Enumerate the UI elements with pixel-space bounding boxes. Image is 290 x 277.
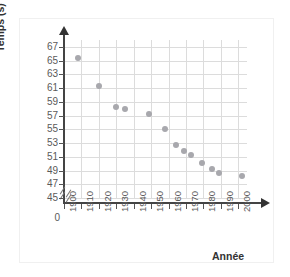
y-tick-label: 49: [12, 166, 58, 176]
x-tick-label: 1920: [103, 191, 112, 212]
y-axis-arrow-icon: [59, 26, 69, 35]
y-tick-label: 63: [12, 69, 58, 79]
y-tick-label: 51: [12, 152, 58, 162]
y-tick-mark: [59, 157, 64, 158]
gridline-vertical: [99, 40, 100, 198]
x-tick-mark: [221, 204, 222, 209]
origin-label: 0: [40, 212, 60, 223]
y-tick-mark: [59, 184, 64, 185]
x-tick-mark: [116, 204, 117, 209]
y-tick-label: 67: [12, 42, 58, 52]
axis-break-icon: [57, 186, 73, 204]
y-tick-mark: [59, 74, 64, 75]
y-tick-label: 47: [12, 179, 58, 189]
y-tick-label: 61: [12, 83, 58, 93]
y-tick-mark: [59, 143, 64, 144]
y-axis-title: Temps (s): [0, 3, 6, 52]
x-tick-mark: [203, 204, 204, 209]
x-tick-mark: [134, 204, 135, 209]
data-point: [75, 55, 81, 61]
x-tick-mark: [238, 204, 239, 209]
y-tick-mark: [59, 198, 64, 199]
gridline-horizontal: [64, 184, 247, 185]
y-tick-label: 45: [12, 193, 58, 203]
y-tick-mark: [59, 47, 64, 48]
y-tick-mark: [59, 171, 64, 172]
x-tick-label: 1960: [173, 191, 182, 212]
gridline-horizontal: [64, 61, 247, 62]
y-tick-label: 59: [12, 97, 58, 107]
data-point: [113, 104, 119, 110]
gridline-vertical: [116, 40, 117, 198]
x-tick-label: 1990: [225, 191, 234, 212]
x-tick-mark: [81, 204, 82, 209]
x-tick-label: 1950: [155, 191, 164, 212]
gridline-horizontal: [64, 143, 247, 144]
gridline-horizontal: [64, 47, 247, 48]
y-axis-line: [63, 33, 65, 203]
gridline-vertical: [151, 40, 152, 198]
x-tick-label: 2000: [242, 191, 251, 212]
x-axis-title: Année: [212, 250, 244, 262]
x-tick-label: 1980: [207, 191, 216, 212]
data-point: [199, 160, 205, 166]
x-tick-label: 1940: [138, 191, 147, 212]
x-tick-label: 1910: [85, 191, 94, 212]
x-tick-label: 1930: [120, 191, 129, 212]
data-point: [173, 142, 179, 148]
gridline-vertical: [186, 40, 187, 198]
gridline-vertical: [203, 40, 204, 198]
data-point: [96, 83, 102, 89]
gridline-vertical: [134, 40, 135, 198]
gridline-horizontal: [64, 74, 247, 75]
plot-area: [64, 40, 247, 198]
x-tick-mark: [169, 204, 170, 209]
x-tick-mark: [151, 204, 152, 209]
y-tick-label: 55: [12, 124, 58, 134]
y-tick-mark: [59, 102, 64, 103]
y-tick-mark: [59, 116, 64, 117]
gridline-horizontal: [64, 129, 247, 130]
data-point: [188, 152, 194, 158]
x-tick-mark: [99, 204, 100, 209]
y-tick-label: 57: [12, 111, 58, 121]
x-tick-mark: [64, 204, 65, 209]
x-tick-label: 1970: [190, 191, 199, 212]
y-tick-label: 53: [12, 138, 58, 148]
chart-figure: 676563615957555351494745 190019101920193…: [0, 0, 290, 277]
data-point: [181, 148, 187, 154]
x-tick-mark: [186, 204, 187, 209]
data-point: [122, 106, 128, 112]
gridline-vertical: [169, 40, 170, 198]
y-tick-mark: [59, 88, 64, 89]
gridline-horizontal: [64, 116, 247, 117]
gridline-horizontal: [64, 102, 247, 103]
data-point: [216, 170, 222, 176]
data-point: [239, 173, 245, 179]
gridline-horizontal: [64, 88, 247, 89]
data-point: [162, 126, 168, 132]
y-tick-mark: [59, 61, 64, 62]
y-tick-label: 65: [12, 56, 58, 66]
y-tick-mark: [59, 129, 64, 130]
x-axis-arrow-icon: [261, 198, 270, 208]
gridline-horizontal: [64, 157, 247, 158]
gridline-vertical: [81, 40, 82, 198]
